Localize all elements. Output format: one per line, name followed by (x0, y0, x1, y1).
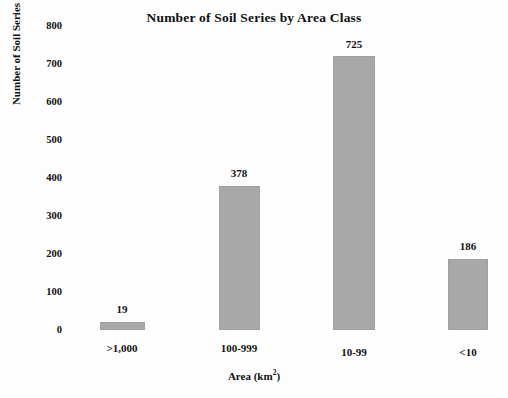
bar-value-label: 19 (82, 303, 162, 316)
bar-series-1[interactable] (100, 322, 145, 330)
x-tick-label-4: <10 (428, 345, 508, 359)
x-tick-label-1: >1,000 (82, 341, 162, 355)
bar-value-label: 186 (428, 240, 508, 253)
x-axis-title: Area (km2) (0, 368, 508, 382)
bar-series-2[interactable] (219, 186, 260, 330)
bar-value-label: 378 (199, 167, 279, 180)
bar-series-3[interactable] (333, 56, 375, 330)
plot-area: 19 >1,000 378 100-999 725 10-99 186 <10 (0, 0, 508, 398)
x-tick-label-2: 100-999 (199, 341, 279, 355)
bar-chart: Number of Soil Series by Area Class Numb… (0, 0, 508, 398)
x-tick-label-3: 10-99 (314, 345, 394, 359)
x-axis-title-main: Area (km (228, 370, 273, 382)
x-axis-title-tail: ) (276, 370, 280, 382)
bar-series-4[interactable] (448, 259, 488, 330)
bar-value-label: 725 (314, 38, 394, 51)
